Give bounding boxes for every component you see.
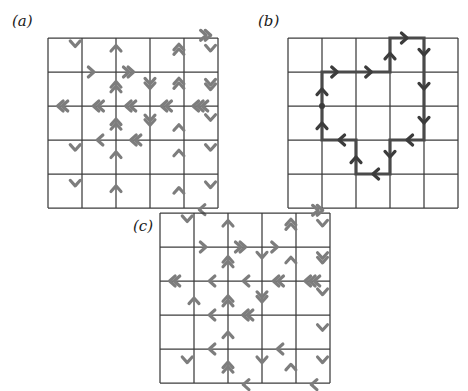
arrow-left bbox=[243, 380, 249, 390]
panel-a bbox=[48, 38, 223, 216]
arrow-down bbox=[318, 325, 328, 331]
marked-vertex-dot bbox=[319, 103, 325, 109]
arrow-down bbox=[206, 115, 216, 121]
panel-c-lattice bbox=[160, 213, 335, 391]
arrow-down bbox=[182, 357, 192, 363]
arrow-down bbox=[206, 145, 216, 151]
arrow-down bbox=[318, 253, 328, 263]
arrow-down bbox=[70, 145, 80, 151]
arrow-up bbox=[174, 125, 184, 131]
arrow-down bbox=[318, 289, 328, 295]
arrow-down bbox=[70, 41, 80, 47]
panel-a-lattice bbox=[48, 38, 223, 216]
panel-a-label: (a) bbox=[12, 12, 33, 30]
arrow-up bbox=[286, 257, 296, 263]
arrow-down bbox=[318, 220, 328, 226]
panel-c bbox=[160, 213, 335, 391]
panel-b-lattice bbox=[288, 38, 463, 216]
arrow-down bbox=[318, 357, 328, 363]
arrow-down bbox=[206, 79, 216, 89]
arrow-down bbox=[206, 45, 216, 51]
arrow-up bbox=[174, 188, 184, 194]
arrow-up bbox=[286, 364, 296, 370]
arrow-right bbox=[201, 30, 211, 40]
arrow-up bbox=[174, 150, 184, 156]
arrow-up bbox=[174, 44, 184, 54]
arrow-up bbox=[286, 219, 296, 229]
arrow-left bbox=[311, 380, 317, 390]
arrow-up bbox=[174, 78, 184, 88]
arrow-down bbox=[206, 182, 216, 188]
panel-c-label: (c) bbox=[133, 217, 153, 235]
panel-b-label: (b) bbox=[258, 12, 279, 30]
panel-b bbox=[288, 38, 463, 216]
arrow-down bbox=[70, 180, 80, 186]
arrow-down bbox=[182, 216, 192, 222]
